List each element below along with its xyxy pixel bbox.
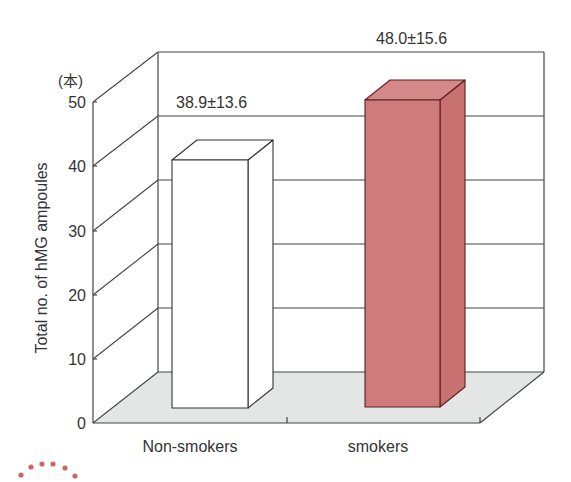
y-axis bbox=[93, 102, 97, 423]
y-tick-30: 30 bbox=[68, 223, 86, 240]
side-wall-diagonals bbox=[93, 52, 158, 423]
chart-floor bbox=[93, 372, 544, 423]
chart-canvas: 38.9±13.6 48.0±15.6 (本) 0 10 20 30 40 50… bbox=[0, 0, 571, 482]
annotation-non-smokers: 38.9±13.6 bbox=[176, 94, 247, 111]
unit-label: (本) bbox=[58, 72, 83, 89]
decorative-dots-icon bbox=[18, 461, 77, 478]
annotation-smokers: 48.0±15.6 bbox=[376, 30, 447, 47]
x-label-non-smokers: Non-smokers bbox=[142, 438, 237, 455]
y-tick-10: 10 bbox=[68, 351, 86, 368]
y-tick-labels: 0 10 20 30 40 50 bbox=[68, 94, 86, 432]
y-tick-0: 0 bbox=[77, 415, 86, 432]
y-tick-20: 20 bbox=[68, 287, 86, 304]
x-label-smokers: smokers bbox=[348, 438, 408, 455]
y-axis-label: Total no. of hMG ampoules bbox=[33, 162, 50, 353]
y-tick-50: 50 bbox=[68, 94, 86, 111]
y-tick-40: 40 bbox=[68, 158, 86, 175]
bar-smokers bbox=[365, 80, 465, 407]
bar-non-smokers bbox=[172, 140, 273, 408]
